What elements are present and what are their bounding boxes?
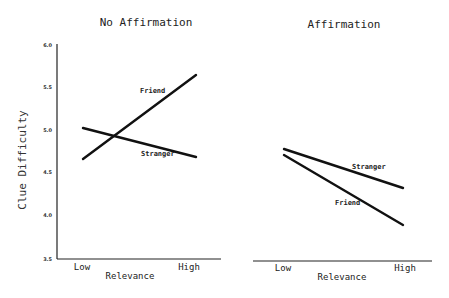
chart-canvas: Clue Difficulty No Affirmation 6.0 5.5 5…: [0, 0, 449, 298]
series-line-stranger-left: [83, 128, 196, 157]
panel-title-left: No Affirmation: [100, 16, 193, 29]
panel-affirmation: Affirmation Stranger Friend Low High Rel…: [253, 18, 432, 282]
x-tick-low-right: Low: [275, 263, 292, 273]
x-tick-low-left: Low: [74, 262, 91, 272]
x-tick-high-left: High: [178, 262, 200, 272]
x-tick-high-right: High: [394, 263, 416, 273]
x-axis-label-right: Relevance: [318, 272, 367, 282]
y-tick: 4.5: [43, 169, 52, 175]
y-tick: 3.5: [43, 256, 52, 262]
series-label-friend-left: Friend: [140, 87, 165, 95]
y-tick: 4.0: [43, 212, 52, 218]
y-axis-label: Clue Difficulty: [16, 110, 29, 210]
y-tick: 6.0: [43, 42, 52, 48]
x-axis-label-left: Relevance: [106, 271, 155, 281]
series-label-stranger-right: Stranger: [352, 163, 386, 171]
panel-no-affirmation: No Affirmation 6.0 5.5 5.0 4.5 4.0 3.5 F…: [43, 16, 221, 281]
y-tick: 5.5: [43, 84, 52, 90]
panel-title-right: Affirmation: [308, 18, 381, 31]
series-label-stranger-left: Stranger: [141, 150, 175, 158]
y-tick: 5.0: [43, 127, 52, 133]
series-label-friend-right: Friend: [335, 199, 360, 207]
